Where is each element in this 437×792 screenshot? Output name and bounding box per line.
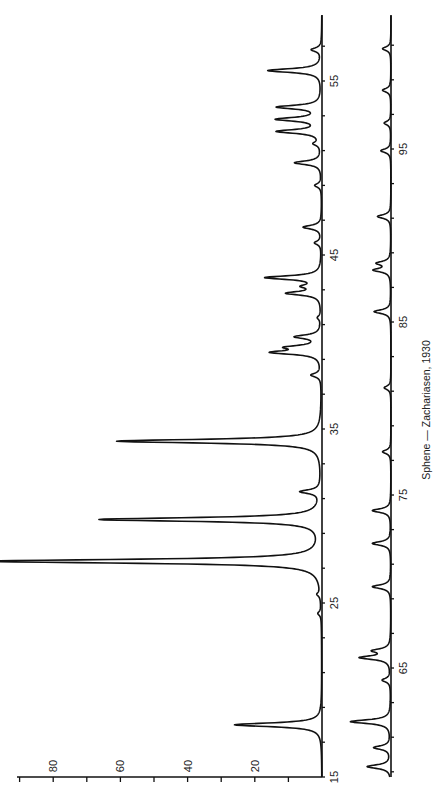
- intensity-tick-label: 60: [114, 760, 126, 772]
- two-theta-axis-upper-range: 1525354555: [322, 15, 340, 783]
- two-theta-axis-lower-range: 65758595: [391, 15, 409, 777]
- two-theta-tick-label: 25: [328, 597, 340, 609]
- chart-caption: Sphene — Zachariasen, 1930: [420, 340, 432, 480]
- diffraction-trace-15-58: [0, 15, 322, 777]
- two-theta-tick-label: 15: [328, 771, 340, 783]
- two-theta-tick-label: 75: [397, 489, 409, 501]
- intensity-tick-label: 20: [249, 760, 261, 772]
- diffraction-trace-58-103: [350, 16, 391, 777]
- intensity-tick-label: 80: [47, 760, 59, 772]
- two-theta-tick-label: 95: [397, 143, 409, 155]
- intensity-tick-label: 40: [182, 760, 194, 772]
- two-theta-tick-label: 55: [328, 75, 340, 87]
- xrd-pattern-chart: 20406080 1525354555 65758595 Sphene — Za…: [0, 0, 437, 792]
- two-theta-tick-label: 45: [328, 249, 340, 261]
- two-theta-tick-label: 65: [397, 662, 409, 674]
- two-theta-tick-label: 35: [328, 423, 340, 435]
- intensity-axis: 20406080: [17, 760, 322, 782]
- two-theta-tick-label: 85: [397, 316, 409, 328]
